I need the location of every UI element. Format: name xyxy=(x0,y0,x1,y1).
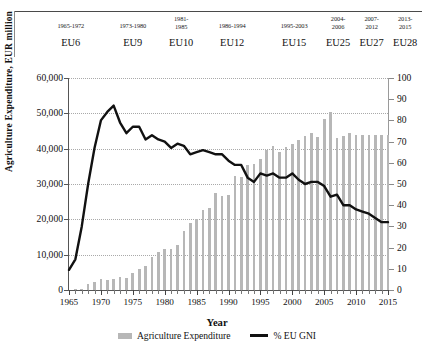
x-tick xyxy=(75,290,76,294)
enlargement-column-eu27: 2007-2012EU27 xyxy=(355,15,389,49)
y-axis-left-label: 30,000 xyxy=(5,179,63,189)
header-left-rule xyxy=(14,11,15,57)
enlargement-period: 1995-2003 xyxy=(263,22,325,30)
agriculture-expenditure-chart: Agriculture Expenditure, EUR million 010… xyxy=(0,62,434,354)
x-tick xyxy=(101,290,102,295)
enlargement-column-eu10: 1981-1985EU10 xyxy=(161,15,201,49)
x-tick xyxy=(126,290,127,294)
x-tick xyxy=(248,290,249,294)
x-tick xyxy=(331,290,332,294)
x-axis-title: Year xyxy=(0,317,434,328)
enlargement-label: EU12 xyxy=(201,37,263,49)
legend-item[interactable]: Agriculture Expenditure xyxy=(118,330,231,341)
enlargement-period: 1981-1985 xyxy=(161,15,201,30)
y-axis-left-label: 40,000 xyxy=(5,144,63,154)
y-axis-title-left: Agriculture Expenditure, EUR million xyxy=(4,158,14,172)
x-tick xyxy=(139,290,140,294)
enlargement-label: EU28 xyxy=(388,37,422,49)
x-axis-label: 2015 xyxy=(368,297,408,307)
y-axis-right-label: 70 xyxy=(397,137,407,147)
enlargement-column-eu6: 1965-1972EU6 xyxy=(40,15,102,49)
enlargement-period: 1986-1994 xyxy=(201,22,263,30)
enlargement-label: EU9 xyxy=(102,37,164,49)
x-tick xyxy=(382,290,383,294)
x-tick xyxy=(222,290,223,294)
x-tick xyxy=(350,290,351,294)
x-tick xyxy=(356,290,357,295)
y-axis-left-label: 10,000 xyxy=(5,250,63,260)
x-tick xyxy=(177,290,178,294)
legend-item[interactable]: % EU GNI xyxy=(250,330,316,341)
x-tick xyxy=(107,290,108,294)
x-tick xyxy=(273,290,274,294)
x-tick xyxy=(375,290,376,294)
y-tick-left xyxy=(64,290,69,291)
x-tick xyxy=(254,290,255,294)
x-tick xyxy=(133,290,134,295)
y-axis-right-label: 100 xyxy=(397,73,411,83)
enlargement-header-table: 1965-1972EU61973-1980EU91981-1985EU10198… xyxy=(14,11,422,57)
y-axis-right-label: 60 xyxy=(397,158,407,168)
y-tick-right xyxy=(389,290,394,291)
chart-legend: Agriculture Expenditure% EU GNI xyxy=(0,330,434,341)
enlargement-column-eu9: 1973-1980EU9 xyxy=(102,15,164,49)
y-tick-left xyxy=(64,184,69,185)
enlargement-period: 2004-2006 xyxy=(321,15,355,30)
plot-area xyxy=(69,78,388,290)
x-tick xyxy=(324,290,325,295)
header-top-rule xyxy=(14,11,422,12)
x-tick xyxy=(260,290,261,295)
y-axis-left-label: 60,000 xyxy=(5,73,63,83)
x-tick xyxy=(362,290,363,294)
enlargement-column-eu28: 2013-2015EU28 xyxy=(388,15,422,49)
enlargement-column-eu12: 1986-1994EU12 xyxy=(201,15,263,49)
y-tick-right xyxy=(389,226,394,227)
x-tick xyxy=(299,290,300,294)
x-tick xyxy=(165,290,166,295)
line-series xyxy=(69,78,388,290)
x-tick xyxy=(146,290,147,294)
x-tick xyxy=(82,290,83,294)
legend-label: Agriculture Expenditure xyxy=(137,330,231,341)
x-tick xyxy=(235,290,236,294)
y-tick-right xyxy=(389,269,394,270)
enlargement-label: EU15 xyxy=(263,37,325,49)
y-tick-left xyxy=(64,255,69,256)
y-tick-left xyxy=(64,113,69,114)
y-axis-right-label: 40 xyxy=(397,200,407,210)
x-tick xyxy=(184,290,185,294)
x-tick xyxy=(120,290,121,294)
x-tick xyxy=(152,290,153,294)
x-tick xyxy=(158,290,159,294)
enlargement-column-eu15: 1995-2003EU15 xyxy=(263,15,325,49)
x-tick xyxy=(305,290,306,294)
y-tick-right xyxy=(389,142,394,143)
x-tick xyxy=(337,290,338,294)
enlargement-label: EU27 xyxy=(355,37,389,49)
x-tick xyxy=(241,290,242,294)
gni-polyline xyxy=(69,106,388,270)
y-tick-left xyxy=(64,78,69,79)
y-tick-left xyxy=(64,219,69,220)
enlargement-period: 2013-2015 xyxy=(388,15,422,30)
y-tick-right xyxy=(389,99,394,100)
y-axis-right-label: 90 xyxy=(397,94,407,104)
x-tick xyxy=(292,290,293,295)
x-tick xyxy=(203,290,204,294)
y-axis-right-label: 20 xyxy=(397,243,407,253)
y-axis-right-label: 10 xyxy=(397,264,407,274)
enlargement-label: EU6 xyxy=(40,37,102,49)
enlargement-period: 1973-1980 xyxy=(102,22,164,30)
y-tick-right xyxy=(389,120,394,121)
legend-bar-swatch-icon xyxy=(118,333,132,339)
y-axis-right-label: 0 xyxy=(397,285,402,295)
y-tick-right xyxy=(389,205,394,206)
enlargement-label: EU25 xyxy=(321,37,355,49)
y-tick-right xyxy=(389,248,394,249)
x-tick xyxy=(229,290,230,295)
x-tick xyxy=(69,290,70,295)
x-tick xyxy=(369,290,370,294)
x-tick xyxy=(88,290,89,294)
x-tick xyxy=(209,290,210,294)
y-axis-right-label: 80 xyxy=(397,115,407,125)
